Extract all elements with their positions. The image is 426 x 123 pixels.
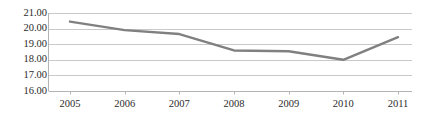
x-axis-tick-label: 2005 — [60, 99, 81, 110]
x-axis-labels: 2005200620072008200920102011 — [0, 0, 426, 123]
x-axis-tick-label: 2009 — [278, 99, 299, 110]
x-axis-tick-label: 2006 — [114, 99, 135, 110]
x-axis-tick-label: 2010 — [333, 99, 354, 110]
x-axis-tick-label: 2011 — [388, 99, 409, 110]
line-chart: 21.0020.0019.0018.0017.0016.00 200520062… — [0, 0, 426, 123]
x-axis-tick-label: 2007 — [169, 99, 190, 110]
x-axis-tick-label: 2008 — [224, 99, 245, 110]
